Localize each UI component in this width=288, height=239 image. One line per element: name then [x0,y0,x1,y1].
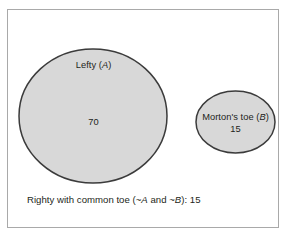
figure-caption: Righty with common toe (~A and ~B): 15 [27,195,201,206]
set-b-label-prefix: Morton's toe ( [202,112,259,122]
set-b-value: 15 [190,124,281,134]
set-b-label-suffix: ) [266,112,269,122]
caption-middle: and ~ [148,194,175,205]
set-a-value: 70 [0,117,187,127]
set-a-label-suffix: ) [108,60,111,70]
set-a-label: Lefty (A) [0,60,187,70]
caption-suffix: ): 15 [181,194,200,205]
set-a-label-prefix: Lefty ( [76,60,102,70]
caption-prefix: Righty with common toe (~ [27,194,141,205]
set-b-label: Morton's toe (B) [190,112,281,122]
venn-diagram-figure: Lefty (A) 70 Morton's toe (B) 15 Righty … [0,0,288,239]
